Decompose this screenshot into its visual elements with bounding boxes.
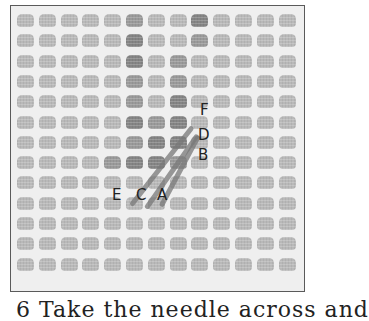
mesh-hole [170, 197, 187, 210]
mesh-hole [82, 217, 99, 230]
mesh-hole [257, 34, 274, 47]
mesh-hole [170, 237, 187, 250]
mesh-hole [126, 14, 143, 27]
mesh-hole [213, 14, 230, 27]
mesh-hole [235, 75, 252, 88]
mesh-hole [17, 217, 34, 230]
mesh-hole [17, 258, 34, 271]
mesh-hole [279, 156, 296, 169]
mesh-hole [279, 197, 296, 210]
mesh-hole [279, 75, 296, 88]
mesh-hole [104, 116, 121, 129]
mesh-hole [213, 176, 230, 189]
mesh-hole [82, 197, 99, 210]
mesh-hole [17, 237, 34, 250]
mesh-hole [61, 136, 78, 149]
mesh-hole [279, 176, 296, 189]
mesh-hole [39, 156, 56, 169]
mesh-hole [235, 217, 252, 230]
mesh-hole [257, 55, 274, 68]
mesh-hole [148, 55, 165, 68]
mesh-hole [170, 217, 187, 230]
mesh-hole [82, 34, 99, 47]
mesh-hole [126, 55, 143, 68]
mesh-hole [148, 75, 165, 88]
mesh-hole [61, 75, 78, 88]
mesh-hole [82, 258, 99, 271]
mesh-hole [235, 237, 252, 250]
mesh-hole [39, 197, 56, 210]
mesh-hole [170, 14, 187, 27]
mesh-hole [191, 237, 208, 250]
mesh-hole [61, 95, 78, 108]
mesh-hole [191, 75, 208, 88]
mesh-hole [126, 237, 143, 250]
mesh-hole [191, 34, 208, 47]
mesh-hole [148, 237, 165, 250]
canvas-photo-frame: F D B E C A [10, 5, 305, 292]
mesh-hole [213, 136, 230, 149]
point-label-e: E [112, 188, 121, 203]
point-label-c: C [136, 188, 146, 203]
mesh-hole [61, 34, 78, 47]
mesh-hole [257, 95, 274, 108]
mesh-hole [39, 75, 56, 88]
mesh-hole [104, 217, 121, 230]
mesh-hole [191, 14, 208, 27]
mesh-hole [82, 95, 99, 108]
mesh-hole [61, 237, 78, 250]
mesh-hole [82, 237, 99, 250]
mesh-hole [104, 258, 121, 271]
mesh-hole [235, 116, 252, 129]
mesh-hole [235, 34, 252, 47]
point-label-d: D [198, 128, 210, 143]
mesh-hole [279, 55, 296, 68]
mesh-hole [148, 217, 165, 230]
mesh-hole [279, 217, 296, 230]
mesh-hole [213, 197, 230, 210]
mesh-hole [126, 258, 143, 271]
mesh-hole [17, 55, 34, 68]
mesh-hole [61, 176, 78, 189]
mesh-hole [104, 55, 121, 68]
mesh-hole [279, 258, 296, 271]
mesh-hole [39, 237, 56, 250]
mesh-hole [279, 14, 296, 27]
mesh-hole [17, 176, 34, 189]
mesh-hole [17, 156, 34, 169]
mesh-hole [213, 95, 230, 108]
mesh-hole [257, 217, 274, 230]
mesh-hole [170, 34, 187, 47]
mesh-hole [148, 258, 165, 271]
mesh-hole [213, 258, 230, 271]
mesh-hole [213, 116, 230, 129]
mesh-hole [126, 136, 143, 149]
mesh-hole [61, 197, 78, 210]
mesh-hole [39, 217, 56, 230]
mesh-hole [279, 237, 296, 250]
mesh-hole [126, 34, 143, 47]
mesh-hole [126, 116, 143, 129]
mesh-hole [104, 136, 121, 149]
mesh-hole [39, 136, 56, 149]
mesh-hole [104, 237, 121, 250]
mesh-hole [235, 136, 252, 149]
mesh-hole [39, 176, 56, 189]
mesh-hole [170, 258, 187, 271]
mesh-hole [17, 14, 34, 27]
mesh-hole [235, 14, 252, 27]
mesh-hole [257, 116, 274, 129]
mesh-hole [170, 75, 187, 88]
mesh-hole [257, 197, 274, 210]
mesh-hole [82, 176, 99, 189]
mesh-hole [126, 75, 143, 88]
mesh-hole [213, 217, 230, 230]
mesh-hole [39, 116, 56, 129]
mesh-hole [61, 156, 78, 169]
mesh-hole [82, 75, 99, 88]
mesh-hole [17, 75, 34, 88]
mesh-hole [39, 14, 56, 27]
mesh-hole [213, 55, 230, 68]
mesh-hole [104, 14, 121, 27]
mesh-hole [257, 156, 274, 169]
